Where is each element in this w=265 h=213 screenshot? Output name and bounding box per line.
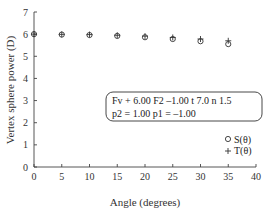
y-tick-label: 7 bbox=[23, 7, 28, 18]
annotation-line-2: p2 = 1.00 p1 = –1.00 bbox=[112, 108, 196, 119]
t-point bbox=[198, 36, 204, 42]
y-tick-label: 1 bbox=[23, 139, 28, 150]
x-tick-label: 40 bbox=[251, 171, 261, 182]
x-tick-label: 10 bbox=[85, 171, 95, 182]
data-points bbox=[31, 31, 231, 47]
y-tick-label: 4 bbox=[23, 73, 28, 84]
annotation-line-1: Fv + 6.00 F2 –1.00 t 7.0 n 1.5 bbox=[112, 95, 232, 106]
y-axis-label: Vertex sphere power (D) bbox=[4, 35, 17, 144]
annotation-box: Fv + 6.00 F2 –1.00 t 7.0 n 1.5 p2 = 1.00… bbox=[106, 92, 262, 121]
x-axis-label: Angle (degrees) bbox=[110, 196, 181, 209]
legend-plus-icon bbox=[225, 148, 231, 154]
x-tick-label: 15 bbox=[112, 171, 122, 182]
x-tick-label: 25 bbox=[168, 171, 178, 182]
x-tick-label: 0 bbox=[32, 171, 37, 182]
legend-circle-icon bbox=[225, 136, 230, 141]
y-tick-label: 2 bbox=[23, 117, 28, 128]
y-tick-label: 6 bbox=[23, 29, 28, 40]
legend: S(θ) T(θ) bbox=[225, 134, 252, 157]
x-tick-label: 5 bbox=[59, 171, 64, 182]
y-tick-label: 0 bbox=[23, 162, 28, 173]
x-tick-label: 20 bbox=[140, 171, 150, 182]
y-tick-label: 3 bbox=[23, 95, 28, 106]
y-tick-label: 5 bbox=[23, 51, 28, 62]
scatter-chart: 051015202530354001234567 Fv + 6.00 F2 –1… bbox=[0, 0, 265, 213]
x-tick-label: 30 bbox=[196, 171, 206, 182]
legend-t-label: T(θ) bbox=[234, 145, 252, 157]
x-tick-label: 35 bbox=[223, 171, 233, 182]
